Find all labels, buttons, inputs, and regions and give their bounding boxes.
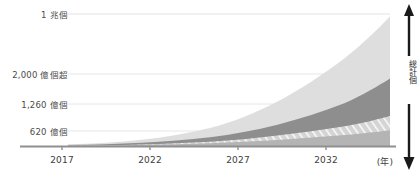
x-tick-label-2017: 2017 bbox=[50, 155, 74, 165]
y-tick-label-4: 620 億個 bbox=[30, 125, 68, 137]
x-tick-label-2032: 2032 bbox=[314, 155, 338, 165]
y-axis-labels: 1 兆個 2,000 億個超 1,260 億個 620 億個 bbox=[0, 0, 68, 179]
x-tick-label-2027: 2027 bbox=[226, 155, 250, 165]
y-tick-label-2: 2,000 億個超 bbox=[12, 68, 68, 80]
x-tick-label-2022: 2022 bbox=[138, 155, 162, 165]
stacked-areas bbox=[68, 17, 390, 147]
y-tick-label-3: 1,260 億個 bbox=[21, 98, 68, 110]
chart-container: 1 兆個 2,000 億個超 1,260 億個 620 億個 2017 2022… bbox=[0, 0, 420, 179]
cumulative-axis-arrow bbox=[404, 4, 415, 170]
cumulative-axis-label: 総計個 bbox=[396, 60, 416, 84]
y-tick-label-1: 1 兆個 bbox=[41, 8, 68, 20]
x-axis-unit-label: (年) bbox=[377, 155, 394, 168]
x-axis bbox=[20, 147, 396, 151]
